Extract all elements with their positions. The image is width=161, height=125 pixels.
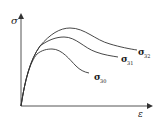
label-sigma-32: σ 32 [138,47,150,59]
svg-text:31: 31 [127,60,133,66]
curve-sigma-32 [21,28,137,106]
x-axis-label: ε [138,109,143,119]
svg-text:30: 30 [100,78,106,84]
label-sigma-31: σ 31 [121,54,133,66]
curve-sigma-31 [21,37,118,106]
svg-text:32: 32 [144,53,150,59]
curve-sigma-30 [21,49,89,106]
label-sigma-30: σ 30 [94,72,106,84]
y-axis-label: σ [11,15,19,26]
stress-strain-diagram: σ ε σ 32 σ 31 σ 30 [0,0,161,125]
